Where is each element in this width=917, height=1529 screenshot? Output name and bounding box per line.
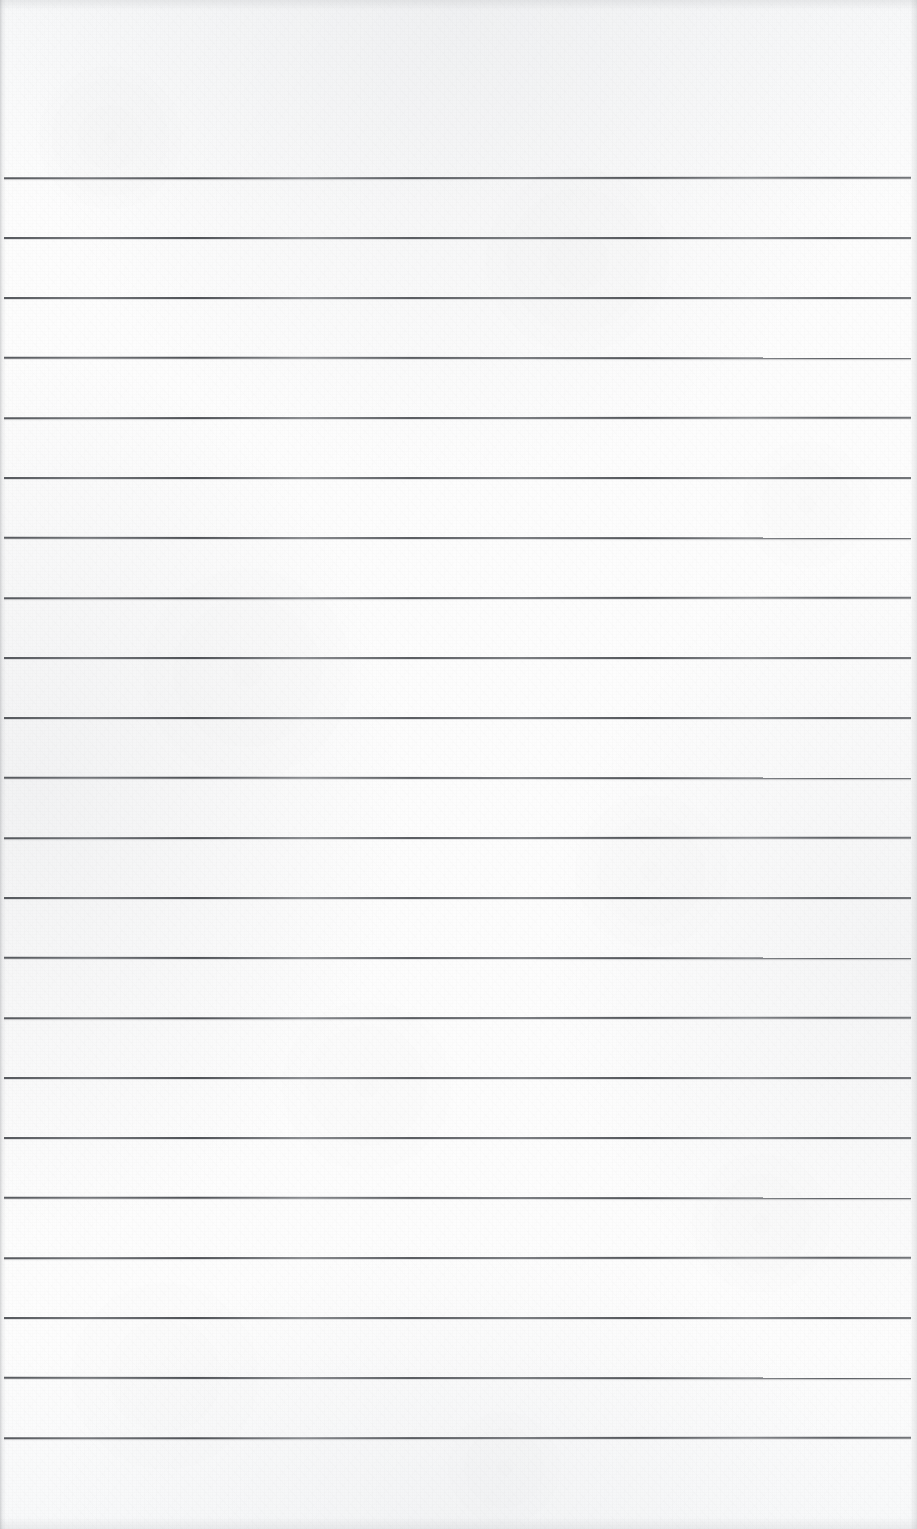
ruled-line-ink (4, 297, 911, 299)
ruled-line (4, 177, 911, 180)
ruled-line-ink (4, 1077, 911, 1079)
ruled-line (4, 417, 911, 419)
ruled-line (4, 1317, 911, 1319)
ruled-line (4, 717, 911, 719)
ruled-line (4, 297, 911, 299)
ruled-line-ink (4, 717, 911, 719)
ruled-line (4, 477, 911, 479)
ruled-line (4, 657, 911, 659)
scanned-page (0, 0, 917, 1529)
ruled-line (4, 1137, 911, 1139)
ruled-line-ink (4, 957, 911, 959)
ruled-line-ink (4, 1317, 911, 1319)
ruled-line-ink (4, 897, 911, 899)
ruled-line (4, 537, 911, 539)
ruled-line (4, 957, 911, 959)
ruled-line (4, 1377, 911, 1379)
ruled-line (4, 897, 911, 899)
ruled-line-ink (4, 597, 911, 600)
ruled-line (4, 597, 911, 600)
ruled-line-ink (4, 537, 911, 539)
ruled-line (4, 1257, 911, 1259)
ruled-line-ink (4, 657, 911, 659)
ruled-line-ink (4, 1197, 911, 1200)
ruled-line-ink (4, 777, 911, 780)
ruled-line-ink (4, 1437, 911, 1440)
ruled-line (4, 237, 911, 239)
ruled-line-ink (4, 477, 911, 479)
ruled-line (4, 1197, 911, 1200)
ruled-line (4, 837, 911, 839)
ruled-line (4, 357, 911, 360)
ruled-line (4, 1077, 911, 1079)
ruled-line-ink (4, 1137, 911, 1139)
ruled-line (4, 1437, 911, 1440)
ruled-line-ink (4, 177, 911, 180)
ruled-line-ink (4, 837, 911, 839)
ruled-line-ink (4, 1257, 911, 1259)
ruled-line-ink (4, 357, 911, 360)
ruled-line-ink (4, 237, 911, 239)
ruled-lines-layer (0, 0, 917, 1529)
ruled-line-ink (4, 417, 911, 419)
ruled-line (4, 777, 911, 780)
ruled-line-ink (4, 1377, 911, 1379)
ruled-line-ink (4, 1017, 911, 1020)
ruled-line (4, 1017, 911, 1020)
